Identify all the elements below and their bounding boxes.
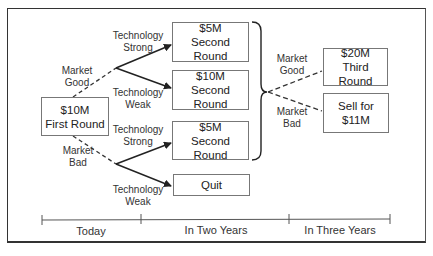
box-label: Sell for bbox=[338, 99, 374, 113]
tech-weak-lower-label: Technology Weak bbox=[113, 184, 164, 208]
box-label: Quit bbox=[201, 178, 222, 192]
box-amount: $10M bbox=[196, 69, 225, 83]
timeline-two-years: In Two Years bbox=[185, 224, 248, 236]
timeline-today: Today bbox=[76, 225, 105, 237]
market-good-right-label: Market Good bbox=[277, 53, 308, 77]
second-round-box-1: $5M Second Round bbox=[172, 22, 249, 62]
first-round-box: $10M First Round bbox=[41, 97, 109, 136]
box-label: Second Round bbox=[173, 134, 248, 162]
quit-box: Quit bbox=[173, 174, 250, 196]
third-round-box: $20M Third Round bbox=[323, 48, 388, 86]
market-bad-label: Market Bad bbox=[63, 145, 94, 169]
box-amount: $5M bbox=[199, 21, 221, 35]
second-round-box-3: $5M Second Round bbox=[172, 121, 249, 160]
market-bad-right-label: Market Bad bbox=[277, 106, 308, 130]
timeline-three-years: In Three Years bbox=[304, 224, 375, 236]
tech-strong-lower-label: Technology Strong bbox=[113, 124, 164, 148]
box-amount: $11M bbox=[342, 113, 370, 127]
tech-strong-upper-label: Technology Strong bbox=[113, 30, 164, 54]
sell-box: Sell for $11M bbox=[323, 93, 389, 133]
market-good-label: Market Good bbox=[62, 65, 93, 89]
first-round-label: First Round bbox=[45, 117, 104, 131]
box-amount: $20M bbox=[341, 46, 370, 60]
first-round-amount: $10M bbox=[61, 103, 90, 117]
box-label: Second Round bbox=[173, 35, 248, 63]
second-round-box-2: $10M Second Round bbox=[172, 70, 249, 110]
box-amount: $5M bbox=[199, 120, 221, 134]
box-label: Second Round bbox=[173, 83, 248, 111]
box-label: Third Round bbox=[324, 60, 387, 88]
tech-weak-upper-label: Technology Weak bbox=[113, 87, 164, 111]
